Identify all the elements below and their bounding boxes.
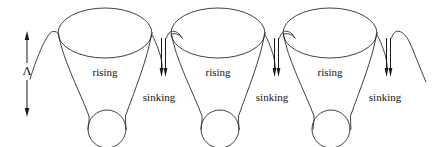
convection-cell-2: rising sinking (171, 8, 295, 147)
outer-hump-right-tail (392, 31, 427, 82)
scale-arrow-down-head (25, 108, 30, 117)
cell-bottom-circle (88, 110, 126, 147)
rising-label-2: rising (205, 66, 231, 78)
throat-inflow-left (152, 34, 163, 70)
cell-top-ellipse (283, 8, 377, 58)
funnel-left-wall (59, 34, 90, 129)
funnel-right-wall (350, 34, 376, 129)
rising-label-3: rising (317, 66, 343, 78)
throat-inflow-left (265, 34, 276, 70)
outer-hump-left (284, 34, 296, 38)
sinking-label-1: sinking (143, 91, 176, 103)
throat-hump-1 (167, 31, 183, 38)
cell-top-ellipse (171, 8, 265, 58)
rising-label-1: rising (92, 66, 118, 78)
convection-cell-diagram: rising sinking rising sinking (0, 0, 438, 147)
throat-inflow-left (377, 34, 388, 70)
cell-bottom-circle (201, 110, 239, 147)
outer-hump-left (172, 34, 183, 38)
funnel-left-wall (172, 34, 203, 129)
sinking-label-3: sinking (369, 91, 402, 103)
lambda-label: Λ (22, 64, 31, 78)
funnel-right-wall (125, 34, 151, 129)
convection-cell-3: rising sinking (283, 8, 426, 147)
cell-top-ellipse (58, 8, 152, 58)
scale-marker: Λ (22, 31, 31, 117)
scale-arrow-up-head (25, 31, 30, 40)
diagram-canvas: rising sinking rising sinking (0, 0, 438, 147)
funnel-left-wall (284, 34, 315, 129)
cell-bottom-circle (312, 110, 350, 147)
sinking-label-2: sinking (256, 91, 289, 103)
convection-cell-1: rising sinking (30, 8, 182, 147)
throat-hump-2 (280, 31, 296, 38)
funnel-right-wall (238, 34, 264, 129)
outer-hump-left (30, 31, 59, 79)
